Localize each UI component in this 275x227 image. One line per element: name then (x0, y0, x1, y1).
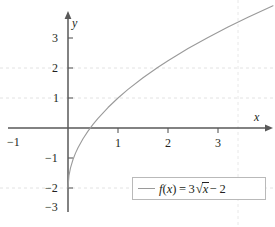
legend-radical: √x (195, 182, 210, 196)
legend-box: f(x) = 3√x− 2 (132, 177, 266, 200)
legend-line-sample (138, 188, 155, 189)
x-tick-label-2: 2 (165, 137, 171, 149)
function-graph-figure: 3 2 1 −1 −2 −3 1 2 3 −1 y x f(x) = 3√x− … (0, 0, 275, 227)
x-tick-label-1: 1 (115, 137, 121, 149)
legend-fname: f (159, 182, 162, 196)
y-tick-label-1: 1 (53, 92, 59, 104)
legend-constant: − 2 (209, 182, 225, 196)
legend-arg: x (167, 182, 173, 196)
x-tick-label-minus-1: −1 (7, 136, 20, 148)
y-tick-label-2: 2 (52, 62, 58, 74)
y-tick-label-minus-3: −3 (45, 201, 58, 213)
x-axis-label: x (254, 111, 259, 123)
y-axis-label: y (72, 17, 77, 29)
function-curve (68, 6, 273, 188)
y-tick-label-minus-2: −2 (45, 182, 58, 194)
legend-label: f(x) = 3√x− 2 (159, 182, 226, 196)
y-tick-label-3: 3 (52, 32, 58, 44)
y-tick-label-minus-1: −1 (45, 152, 58, 164)
x-axis-arrowhead (265, 125, 273, 132)
legend-equals: = (179, 182, 186, 196)
x-tick-label-3: 3 (215, 137, 221, 149)
legend-radicand: x (202, 182, 210, 196)
y-axis-arrowhead (65, 11, 72, 19)
